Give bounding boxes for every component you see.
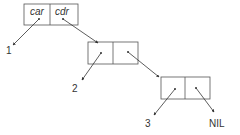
cell-3-box — [161, 77, 210, 99]
cdr-label: cdr — [55, 6, 70, 17]
cons-cell-diagram: car cdr 1 2 3 NIL — [0, 0, 240, 135]
cons-cell-3 — [161, 77, 210, 99]
cons-cell-1: car cdr — [24, 4, 78, 25]
value-2-label: 2 — [72, 83, 78, 94]
value-3-label: 3 — [145, 118, 151, 129]
arrow-cdr1-to-cell2 — [63, 19, 98, 43]
value-1-label: 1 — [6, 45, 12, 56]
car-label: car — [30, 6, 45, 17]
arrow-cdr2-to-cell3 — [128, 52, 159, 77]
nil-label: NIL — [209, 118, 225, 129]
